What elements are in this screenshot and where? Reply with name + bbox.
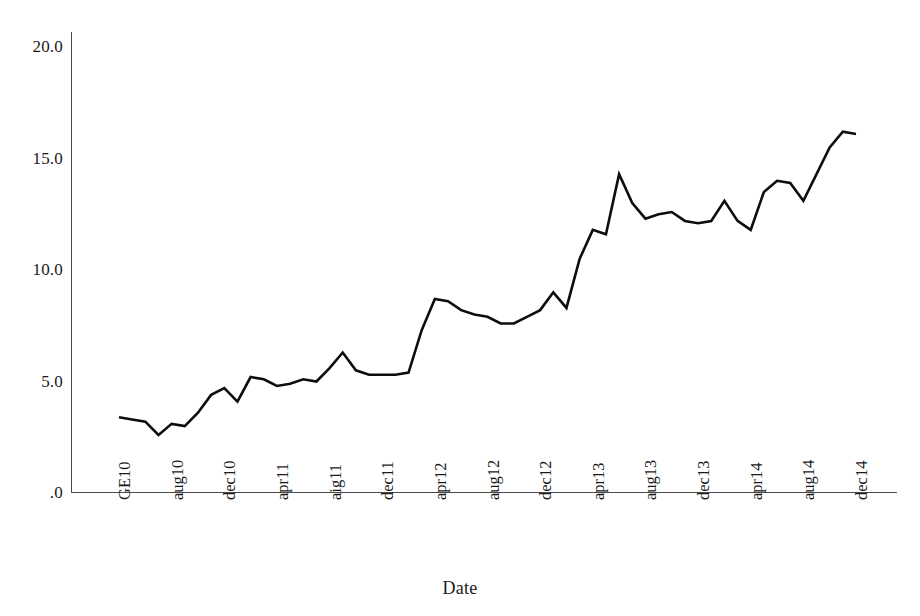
plot-area: [0, 0, 920, 616]
line-chart: .05.010.015.020.0 GE10aug10dec10apr11aig…: [0, 0, 920, 616]
x-axis-title: Date: [0, 578, 920, 599]
data-series-line: [119, 132, 856, 435]
